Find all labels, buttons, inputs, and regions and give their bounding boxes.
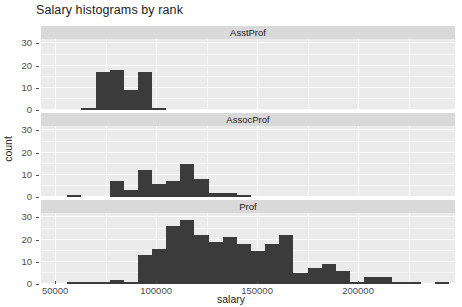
histogram-bar [166, 181, 180, 197]
y-tick-mark [36, 175, 39, 176]
histogram-bar [223, 193, 237, 197]
histogram-bar [152, 108, 166, 110]
histogram-bar [237, 195, 251, 197]
histogram-bar [378, 277, 392, 284]
panel-strip-label: AssocProf [41, 113, 455, 126]
histogram-bar [392, 282, 406, 284]
y-tick-label: 30 [4, 125, 32, 135]
y-tick-label: 0 [4, 279, 32, 289]
gridline-vertical [358, 213, 359, 284]
histogram-bar [110, 181, 124, 197]
panel-strip-label: AsstProf [41, 26, 455, 39]
gridline-vertical [55, 213, 56, 284]
x-tick-mark [257, 281, 258, 284]
y-tick-mark [36, 284, 39, 285]
x-tick-mark [156, 281, 157, 284]
histogram-bar [67, 282, 81, 284]
x-tick-label: 50000 [42, 285, 68, 296]
histogram-bar [435, 282, 449, 284]
y-tick-label: 30 [4, 38, 32, 48]
y-tick-mark [36, 110, 39, 111]
y-tick-mark [36, 240, 39, 241]
x-axis-label: salary [0, 293, 462, 305]
histogram-bar [336, 271, 350, 284]
histogram-bar [124, 90, 138, 110]
gridline-horizontal [41, 129, 455, 130]
facet-panel-prof: Prof [41, 200, 455, 284]
y-tick-mark [36, 88, 39, 89]
histogram-bar [223, 237, 237, 284]
x-tick-mark [55, 281, 56, 284]
gridline-vertical [358, 126, 359, 197]
histogram-bar [265, 244, 279, 284]
histogram-bar [124, 282, 138, 284]
histogram-bar [67, 195, 81, 197]
y-tick-label: 20 [4, 235, 32, 245]
gridline-horizontal-minor [41, 228, 455, 229]
histogram-bar [308, 268, 322, 284]
y-tick-label: 30 [4, 212, 32, 222]
y-tick-mark [36, 217, 39, 218]
histogram-bar [96, 72, 110, 110]
histogram-bar [293, 273, 307, 284]
panel-strip: AssocProf [41, 113, 455, 126]
y-tick-mark [36, 66, 39, 67]
histogram-bar [110, 280, 124, 284]
histogram-bar [209, 242, 223, 284]
panel-strip: AsstProf [41, 26, 455, 39]
gridline-vertical [257, 126, 258, 197]
gridline-vertical [55, 126, 56, 197]
histogram-bar [180, 164, 194, 197]
gridline-vertical [257, 39, 258, 110]
histogram-bar [138, 170, 152, 197]
histogram-bar [350, 282, 364, 284]
gridline-horizontal [41, 65, 455, 66]
gridline-vertical-minor [409, 213, 410, 284]
gridline-horizontal [41, 174, 455, 175]
plot-area [41, 126, 455, 197]
x-tick-label: 100000 [140, 285, 172, 296]
histogram-bar [96, 282, 110, 284]
chart-title: Salary histograms by rank [36, 3, 183, 17]
gridline-vertical-minor [308, 126, 309, 197]
gridline-vertical [156, 39, 157, 110]
gridline-vertical-minor [207, 39, 208, 110]
facet-panel-assocprof: AssocProf [41, 113, 455, 197]
y-tick-mark [36, 262, 39, 263]
gridline-vertical [358, 39, 359, 110]
plot-area [41, 213, 455, 284]
x-tick-label: 150000 [241, 285, 273, 296]
histogram-bar [237, 244, 251, 284]
gridline-vertical-minor [409, 39, 410, 110]
y-tick-mark [36, 197, 39, 198]
y-tick-label: 0 [4, 105, 32, 115]
histogram-bar [364, 277, 378, 284]
histogram-bar [152, 249, 166, 285]
histogram-bar [180, 220, 194, 284]
y-tick-mark [36, 153, 39, 154]
histogram-bar [138, 255, 152, 284]
gridline-vertical-minor [308, 39, 309, 110]
x-tick-mark [358, 281, 359, 284]
gridline-horizontal-minor [41, 185, 455, 186]
histogram-bar [152, 184, 166, 197]
gridline-horizontal-minor [41, 163, 455, 164]
x-tick-label: 200000 [342, 285, 374, 296]
plot-area [41, 39, 455, 110]
chart-root: Salary histograms by rank count salary A… [0, 0, 462, 307]
histogram-bar [251, 251, 265, 284]
panel-strip: Prof [41, 200, 455, 213]
histogram-bar [138, 72, 152, 110]
histogram-bar [124, 190, 138, 197]
y-tick-label: 20 [4, 61, 32, 71]
gridline-horizontal [41, 239, 455, 240]
histogram-bar [81, 282, 95, 284]
gridline-horizontal [41, 152, 455, 153]
gridline-horizontal [41, 216, 455, 217]
histogram-bar [166, 226, 180, 284]
gridline-horizontal-minor [41, 54, 455, 55]
histogram-bar [194, 179, 208, 197]
histogram-bar [209, 193, 223, 197]
gridline-vertical-minor [409, 126, 410, 197]
histogram-bar [81, 108, 95, 110]
